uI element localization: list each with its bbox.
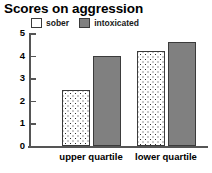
bar-intoxicated-upper-quartile xyxy=(93,56,121,146)
bar-sober-upper-quartile xyxy=(62,90,90,147)
y-axis-tick-label: 0 xyxy=(20,141,25,151)
y-axis-tick-mark xyxy=(29,78,36,80)
x-axis-label: upper quartile xyxy=(59,151,122,162)
dotted-swatch-icon xyxy=(31,18,42,28)
legend-item-intoxicated: intoxicated xyxy=(79,18,139,28)
y-axis-tick-label: 1 xyxy=(20,119,25,129)
y-axis-tick-label: 4 xyxy=(20,51,25,61)
y-axis-tick-mark xyxy=(29,101,36,103)
x-axis-label: lower quartile xyxy=(135,151,197,162)
chart-legend: sober intoxicated xyxy=(31,18,139,28)
legend-label-sober: sober xyxy=(46,18,69,28)
plot-area: 012345 upper quartilelower quartile xyxy=(29,33,208,146)
legend-item-sober: sober xyxy=(31,18,69,28)
y-axis-tick-mark xyxy=(29,123,36,125)
chart-title: Scores on aggression xyxy=(4,1,143,16)
bar-sober-lower-quartile xyxy=(137,51,165,146)
y-axis-line xyxy=(29,33,31,146)
chart-figure: Scores on aggression sober intoxicated 0… xyxy=(0,0,212,173)
y-axis-tick-mark xyxy=(29,56,36,58)
y-axis-tick-label: 2 xyxy=(20,96,25,106)
y-axis-tick-label: 3 xyxy=(20,73,25,83)
bar-intoxicated-lower-quartile xyxy=(168,42,196,146)
y-axis-tick-mark xyxy=(29,33,36,35)
legend-label-intoxicated: intoxicated xyxy=(94,18,139,28)
x-axis-line xyxy=(28,146,208,148)
gray-swatch-icon xyxy=(79,18,90,28)
y-axis-tick-label: 5 xyxy=(20,28,25,38)
